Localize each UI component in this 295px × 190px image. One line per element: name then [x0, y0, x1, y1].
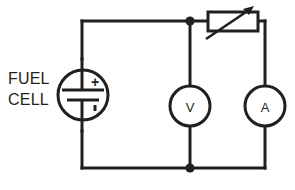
voltmeter-label: V — [186, 100, 195, 115]
circuit-diagram-canvas: + V A FUEL CELL — [0, 0, 295, 190]
fuel-cell-caption: FUEL CELL — [8, 68, 60, 110]
junction-dot-top — [185, 16, 194, 25]
junction-dot-bottom — [185, 163, 194, 172]
fuel-cell-caption-line1: FUEL — [8, 68, 60, 89]
positive-sign-label: + — [91, 74, 99, 90]
ammeter-label: A — [261, 100, 270, 115]
fuel-cell-caption-line2: CELL — [8, 89, 60, 110]
